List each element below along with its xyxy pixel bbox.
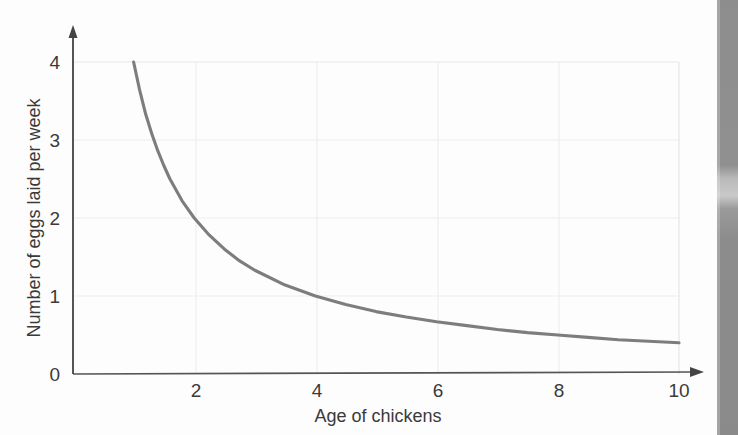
data-curve-eggs-per-week (134, 62, 679, 343)
y-tick-labels: 4 3 2 1 0 (49, 52, 60, 385)
x-tick-label-2: 2 (191, 380, 202, 401)
axes (69, 25, 705, 377)
y-tick-label-4: 4 (49, 52, 60, 73)
y-tick-label-0: 0 (49, 364, 60, 385)
y-tick-label-1: 1 (49, 286, 60, 307)
x-tick-label-8: 8 (554, 380, 565, 401)
x-tick-label-4: 4 (312, 380, 323, 401)
reciprocal-graph: 4 3 2 1 0 2 4 6 8 10 Age of chickens Num… (0, 0, 738, 435)
x-axis-line (73, 372, 694, 374)
page-edge-shadow (717, 0, 738, 435)
data-curve-group (134, 62, 679, 343)
y-axis-title: Number of eggs laid per week (24, 97, 44, 337)
grid-lines (73, 62, 679, 374)
x-tick-label-10: 10 (668, 380, 689, 401)
x-tick-label-6: 6 (433, 380, 444, 401)
page-edge-highlight (717, 0, 720, 435)
x-axis-arrow-icon (690, 367, 704, 377)
chart-page: 4 3 2 1 0 2 4 6 8 10 Age of chickens Num… (0, 0, 738, 435)
y-tick-label-3: 3 (49, 130, 60, 151)
y-axis-arrow-icon (69, 25, 78, 38)
y-tick-label-2: 2 (49, 208, 60, 229)
x-axis-title: Age of chickens (314, 406, 441, 426)
x-tick-labels: 2 4 6 8 10 (191, 380, 690, 401)
